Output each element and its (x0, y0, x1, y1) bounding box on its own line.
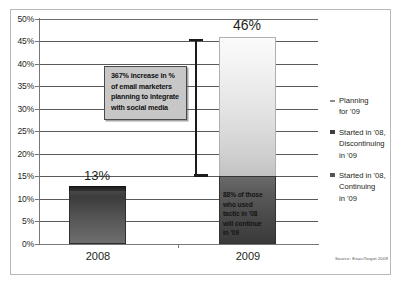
y-tick-label: 50% (0, 14, 34, 24)
bar-2008-continuing[interactable] (69, 186, 126, 244)
in-bar-annotation-line: 88% of those (223, 190, 275, 200)
x-tick-label-2009: 2009 (212, 250, 284, 262)
legend-label-line: Started in '08, (339, 170, 392, 181)
chart-legend: Planning for '09 Started in '08, Discont… (330, 95, 392, 213)
legend-dash-icon (330, 100, 335, 102)
callout-line: with social media (111, 103, 181, 114)
in-bar-annotation-line: tactic in '08 (223, 209, 275, 219)
legend-label-line: Started in '08, (339, 127, 392, 138)
y-tick-label: 25% (0, 126, 34, 136)
x-axis-line (39, 244, 319, 245)
y-tick-label: 20% (0, 149, 34, 159)
y-tick-label: 30% (0, 104, 34, 114)
legend-square-icon (330, 130, 335, 135)
gridline (40, 154, 318, 155)
y-tick-label: 10% (0, 194, 34, 204)
bar-value-2009: 46% (212, 17, 282, 33)
callout-line: planning to integrate (111, 92, 181, 103)
legend-label-line: Planning (339, 95, 392, 106)
gridline (40, 131, 318, 132)
callout-line: of email marketers (111, 82, 181, 93)
legend-square-icon (330, 173, 335, 178)
legend-label-line: in '09 (339, 193, 392, 204)
y-tick-label: 45% (0, 36, 34, 46)
y-axis-labels: 50% 45% 40% 35% 30% 25% 20% 15% 10% 5% 0… (0, 0, 34, 285)
callout-annotation: 367% increase in % of email marketers pl… (104, 66, 187, 120)
bar-2008-discontinuing[interactable] (69, 186, 126, 191)
source-note: Source: ExactTarget 2009 (318, 256, 388, 261)
bracket-vertical-line (195, 39, 197, 176)
gridline (40, 64, 318, 65)
y-tick-label: 40% (0, 59, 34, 69)
x-axis-midtick (178, 244, 179, 248)
legend-item-continuing[interactable]: Started in '08, Continuing in '09 (330, 170, 392, 204)
legend-label-line: Continuing (339, 181, 392, 192)
legend-item-discontinuing[interactable]: Started in '08, Discontinuing in '09 (330, 127, 392, 161)
bracket-bottom-cap (194, 174, 208, 177)
callout-line: 367% increase in % (111, 71, 181, 82)
bar-2009-planning[interactable] (219, 37, 276, 176)
y-tick-label: 15% (0, 171, 34, 181)
in-bar-annotation-line: in '09 (223, 228, 275, 238)
bar-value-2008: 13% (62, 168, 132, 183)
in-bar-annotation-line: will continue (223, 219, 275, 229)
y-axis-line (39, 18, 40, 245)
x-tick-label-2008: 2008 (62, 250, 134, 262)
y-tick-label: 35% (0, 81, 34, 91)
y-tick-label: 0% (0, 239, 34, 249)
in-bar-annotation-line: who used (223, 200, 275, 210)
legend-label-line: for '09 (339, 106, 392, 117)
gridline (40, 41, 318, 42)
legend-item-planning[interactable]: Planning for '09 (330, 95, 392, 118)
legend-label-line: Discontinuing (339, 138, 392, 149)
legend-label-line: in '09 (339, 150, 392, 161)
chart-figure: 50% 45% 40% 35% 30% 25% 20% 15% 10% 5% 0… (0, 0, 402, 285)
in-bar-annotation: 88% of those who used tactic in '08 will… (223, 190, 275, 238)
y-tick-label: 5% (0, 216, 34, 226)
